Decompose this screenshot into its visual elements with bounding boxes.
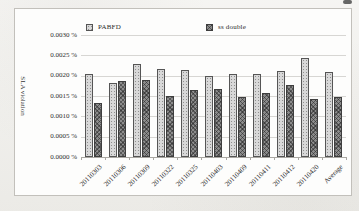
bar-ss-double-20110411 <box>262 93 270 157</box>
ss-double-series-swatch-icon <box>206 24 213 31</box>
bar-ss-double-20110309 <box>142 80 150 157</box>
bar-ss-double-Average <box>334 97 342 157</box>
bar-PABFD-20110309 <box>133 64 141 157</box>
y-axis-title: SLA violation <box>19 76 27 115</box>
x-axis-tick <box>81 157 82 160</box>
y-tick-label: 0.0030 % <box>39 31 77 40</box>
x-axis-tick <box>201 157 202 160</box>
x-axis-tick <box>105 157 106 160</box>
x-axis-tick <box>322 157 323 160</box>
y-gridline <box>81 55 346 56</box>
chart-figure: PABFD ss double SLA violation 0.0030 %0.… <box>14 8 352 196</box>
bar-PABFD-20110420 <box>301 58 309 157</box>
bar-PABFD-20110403 <box>205 76 213 157</box>
x-axis-tick <box>250 157 251 160</box>
bar-PABFD-20110409 <box>229 74 237 157</box>
y-tick-label: 0.0000 % <box>39 153 77 162</box>
x-axis-tick <box>153 157 154 160</box>
y-tick-label: 0.0005 % <box>39 132 77 141</box>
bar-PABFD-20110322 <box>157 69 165 157</box>
plot-area: 0.0030 %0.0025 %0.0020 %0.0015 %0.0010 %… <box>81 35 346 157</box>
bar-PABFD-20110325 <box>181 70 189 157</box>
bar-ss-double-20110420 <box>310 99 318 157</box>
bar-PABFD-20110411 <box>253 74 261 157</box>
x-tick-label: 20110303 <box>30 163 104 211</box>
x-axis-tick <box>346 157 347 160</box>
y-tick-label: 0.0015 % <box>39 92 77 101</box>
y-tick-label: 0.0010 % <box>39 112 77 121</box>
bar-ss-double-20110412 <box>286 85 294 157</box>
bar-PABFD-20110412 <box>277 71 285 157</box>
y-axis-title-wrap: SLA violation <box>15 35 31 157</box>
scan-artifact-mark <box>343 0 352 4</box>
bar-ss-double-20110325 <box>190 90 198 157</box>
x-axis-tick <box>226 157 227 160</box>
legend-item-pabfd: PABFD <box>86 23 121 31</box>
bar-PABFD-20110306 <box>109 83 117 157</box>
bar-ss-double-20110303 <box>94 103 102 157</box>
legend-item-ss-double: ss double <box>206 23 246 31</box>
y-tick-label: 0.0020 % <box>39 71 77 80</box>
x-axis-tick <box>274 157 275 160</box>
legend-label-pabfd: PABFD <box>98 23 121 31</box>
bar-ss-double-20110403 <box>214 89 222 157</box>
x-axis-tick <box>177 157 178 160</box>
x-axis-tick <box>129 157 130 160</box>
page-background: PABFD ss double SLA violation 0.0030 %0.… <box>0 0 359 211</box>
y-gridline <box>81 35 346 36</box>
bar-PABFD-Average <box>325 72 333 157</box>
pabfd-series-swatch-icon <box>86 24 93 31</box>
y-tick-label: 0.0025 % <box>39 51 77 60</box>
legend-label-ss-double: ss double <box>218 23 246 31</box>
bar-PABFD-20110303 <box>85 74 93 157</box>
bar-ss-double-20110306 <box>118 81 126 157</box>
x-axis-line <box>81 157 346 158</box>
x-axis-tick <box>298 157 299 160</box>
bar-ss-double-20110322 <box>166 96 174 157</box>
bar-ss-double-20110409 <box>238 97 246 157</box>
